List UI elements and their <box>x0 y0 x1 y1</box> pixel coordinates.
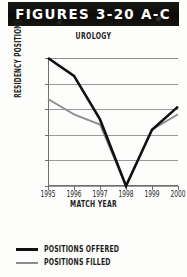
series-line <box>48 99 178 186</box>
legend-item-filled: POSITIONS FILLED <box>16 256 131 269</box>
x-axis-title: MATCH YEAR <box>14 200 173 209</box>
x-tick-label: 1997 <box>88 190 113 199</box>
legend-label-offered: POSITIONS OFFERED <box>44 245 119 254</box>
chart-legend: POSITIONS OFFERED POSITIONS FILLED <box>16 243 131 269</box>
legend-swatch-filled <box>16 262 38 264</box>
x-tick-label: 1998 <box>114 190 139 199</box>
series-lines <box>48 58 178 186</box>
legend-label-filled: POSITIONS FILLED <box>44 258 111 267</box>
x-tick-label: 1996 <box>62 190 87 199</box>
legend-item-offered: POSITIONS OFFERED <box>16 243 131 256</box>
figure-page: FIGURES 3-20 A-C UROLOGY 250240230220210… <box>0 0 187 277</box>
legend-swatch-offered <box>16 248 38 251</box>
plot-area: 250240230220210200 199519961997199819992… <box>48 58 178 186</box>
y-axis-title: RESIDENCY POSITIONS <box>14 2 23 114</box>
figure-banner: FIGURES 3-20 A-C <box>8 2 179 26</box>
gridline <box>48 186 178 187</box>
x-tick-label: 1999 <box>140 190 165 199</box>
x-tick-label: 2000 <box>166 190 187 199</box>
series-line <box>48 58 178 186</box>
figure-banner-label: FIGURES 3-20 A-C <box>16 6 172 22</box>
x-tick-label: 1995 <box>36 190 61 199</box>
chart-title: UROLOGY <box>13 32 174 41</box>
